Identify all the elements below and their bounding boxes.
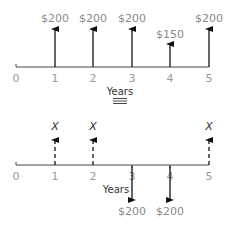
top-tick-1: 1 [52, 72, 59, 85]
top-timeline: 0 1 2 3 4 5 Years $200 $200 $200 $150 $2… [13, 12, 224, 97]
top-label-4: $150 [156, 28, 184, 41]
top-label-2: $200 [79, 12, 107, 25]
bottom-timeline: 0 1 2 3 4 5 Years X X X $200 $200 [13, 120, 214, 218]
bottom-axis-label: Years [102, 184, 129, 195]
equivalence-symbol [113, 99, 127, 104]
top-label-3: $200 [118, 12, 146, 25]
bottom-tick-1: 1 [52, 170, 59, 183]
bottom-label-3: $200 [118, 205, 146, 218]
top-label-5: $200 [195, 12, 223, 25]
top-tick-4: 4 [167, 72, 174, 85]
top-tick-0: 0 [13, 72, 20, 85]
top-axis-label: Years [106, 86, 133, 97]
bottom-tick-2: 2 [90, 170, 97, 183]
top-label-1: $200 [41, 12, 69, 25]
bottom-label-5: X [204, 120, 213, 133]
top-tick-2: 2 [90, 72, 97, 85]
top-tick-5: 5 [206, 72, 213, 85]
cash-flow-diagram: 0 1 2 3 4 5 Years $200 $200 $200 $150 $2… [0, 0, 226, 226]
bottom-label-4: $200 [156, 205, 184, 218]
bottom-tick-5: 5 [206, 170, 213, 183]
bottom-label-1: X [50, 120, 59, 133]
top-tick-3: 3 [129, 72, 136, 85]
bottom-label-2: X [88, 120, 97, 133]
bottom-tick-0: 0 [13, 170, 20, 183]
